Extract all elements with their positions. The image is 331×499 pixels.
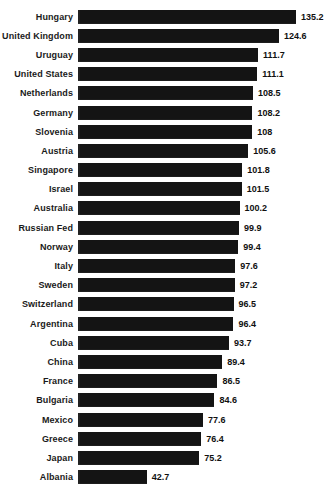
category-label: China (0, 357, 73, 367)
category-label: Israel (0, 184, 73, 194)
bar-area: 97.2 (78, 278, 331, 292)
bar (78, 163, 242, 177)
bar (78, 451, 199, 465)
bar (78, 374, 217, 388)
bar-area: 101.5 (78, 182, 331, 196)
bar-area: 101.8 (78, 163, 331, 177)
bar-area: 97.6 (78, 259, 331, 273)
bar (78, 432, 201, 446)
bar (78, 144, 248, 158)
bar (78, 259, 235, 273)
bar-area: 77.6 (78, 413, 331, 427)
category-label: Sweden (0, 280, 73, 290)
bar-value-label: 96.4 (238, 319, 256, 329)
bar-area: 124.6 (78, 29, 331, 43)
bar-area: 99.4 (78, 240, 331, 254)
bar (78, 86, 253, 100)
bar (78, 413, 203, 427)
bar (78, 67, 257, 81)
bar-area: 76.4 (78, 432, 331, 446)
category-label: Greece (0, 434, 73, 444)
category-label: Hungary (0, 12, 73, 22)
category-label: Uruguay (0, 50, 73, 60)
bar-value-label: 99.4 (243, 242, 261, 252)
chart-row: Russian Fed99.9 (0, 218, 331, 237)
category-label: Albania (0, 472, 73, 482)
category-label: United States (0, 69, 73, 79)
bar-value-label: 93.7 (234, 338, 252, 348)
category-label: Austria (0, 146, 73, 156)
bar-value-label: 42.7 (152, 472, 170, 482)
bar-area: 93.7 (78, 336, 331, 350)
bar (78, 336, 229, 350)
bar-area: 84.6 (78, 393, 331, 407)
chart-row: Italy97.6 (0, 256, 331, 275)
chart-row: Mexico77.6 (0, 410, 331, 429)
bar-value-label: 100.2 (245, 203, 268, 213)
bar-value-label: 111.1 (262, 69, 284, 79)
category-label: Netherlands (0, 88, 73, 98)
bar-value-label: 97.2 (240, 280, 258, 290)
bar-value-label: 86.5 (222, 376, 240, 386)
bar-value-label: 99.9 (244, 223, 262, 233)
category-label: Mexico (0, 415, 73, 425)
bar-value-label: 101.5 (247, 184, 270, 194)
chart-row: Switzerland96.5 (0, 295, 331, 314)
chart-row: Sweden97.2 (0, 276, 331, 295)
bar-area: 99.9 (78, 221, 331, 235)
chart-row: Greece76.4 (0, 429, 331, 448)
chart-row: Japan75.2 (0, 448, 331, 467)
chart-row: Austria105.6 (0, 141, 331, 160)
category-label: France (0, 376, 73, 386)
chart-rows: Hungary135.2United Kingdom124.6Uruguay11… (0, 7, 331, 487)
chart-row: Netherlands108.5 (0, 84, 331, 103)
category-label: Russian Fed (0, 223, 73, 233)
bar (78, 470, 147, 484)
bar-value-label: 135.2 (301, 12, 324, 22)
bar (78, 317, 233, 331)
chart-row: Uruguay111.7 (0, 45, 331, 64)
bar-value-label: 108.2 (257, 108, 280, 118)
bar-area: 96.4 (78, 317, 331, 331)
bar-value-label: 97.6 (240, 261, 258, 271)
bar-area: 42.7 (78, 470, 331, 484)
category-label: Switzerland (0, 299, 73, 309)
bar-value-label: 108 (257, 127, 272, 137)
chart-row: Slovenia108 (0, 122, 331, 141)
horizontal-bar-chart: Hungary135.2United Kingdom124.6Uruguay11… (0, 0, 331, 499)
bar (78, 393, 214, 407)
bar (78, 278, 235, 292)
bar (78, 29, 279, 43)
bar-value-label: 77.6 (208, 415, 226, 425)
bar-area: 108 (78, 125, 331, 139)
bar-value-label: 75.2 (204, 453, 222, 463)
bar (78, 201, 240, 215)
bar-value-label: 89.4 (227, 357, 245, 367)
category-label: Bulgaria (0, 395, 73, 405)
bar-value-label: 124.6 (284, 31, 307, 41)
category-label: Cuba (0, 338, 73, 348)
category-label: Japan (0, 453, 73, 463)
bar (78, 48, 258, 62)
category-label: Australia (0, 203, 73, 213)
bar-area: 105.6 (78, 144, 331, 158)
bar-area: 75.2 (78, 451, 331, 465)
bar-area: 108.2 (78, 106, 331, 120)
chart-row: Cuba93.7 (0, 333, 331, 352)
bar-value-label: 76.4 (206, 434, 224, 444)
bar (78, 221, 239, 235)
bar-area: 89.4 (78, 355, 331, 369)
chart-row: Germany108.2 (0, 103, 331, 122)
bar-value-label: 96.5 (239, 299, 257, 309)
bar-area: 100.2 (78, 201, 331, 215)
bar-value-label: 105.6 (253, 146, 276, 156)
chart-row: France86.5 (0, 372, 331, 391)
bar-area: 86.5 (78, 374, 331, 388)
bar-area: 135.2 (78, 10, 331, 24)
chart-row: Argentina96.4 (0, 314, 331, 333)
bar-value-label: 108.5 (258, 88, 281, 98)
chart-row: Albania42.7 (0, 468, 331, 487)
category-label: Italy (0, 261, 73, 271)
chart-row: United States111.1 (0, 65, 331, 84)
category-label: United Kingdom (0, 31, 73, 41)
